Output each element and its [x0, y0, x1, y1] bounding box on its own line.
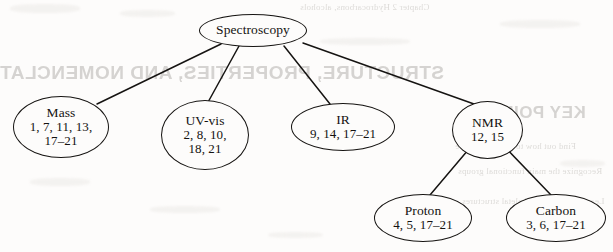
node-ir-label: IR — [336, 113, 350, 127]
node-spectroscopy-label: Spectroscopy — [216, 23, 290, 37]
spectroscopy-tree-diagram: Spectroscopy Mass 1, 7, 11, 13, 17–21 UV… — [0, 0, 613, 252]
node-uv-vis-label: UV-vis — [185, 114, 224, 128]
node-proton-refs-line-1: 4, 5, 17–21 — [393, 218, 453, 232]
node-nmr[interactable]: NMR 12, 15 — [452, 101, 523, 159]
node-mass-refs-line-1: 1, 7, 11, 13, — [30, 120, 93, 134]
node-carbon-label: Carbon — [536, 204, 576, 218]
edge-spectroscopy-ir — [284, 46, 330, 104]
node-mass-label: Mass — [47, 106, 76, 120]
node-nmr-refs-line-1: 12, 15 — [471, 130, 504, 144]
node-carbon-refs-line-1: 3, 6, 17–21 — [526, 218, 586, 232]
node-uv-vis-refs-line-1: 2, 8, 10, — [183, 128, 226, 142]
node-mass-refs-line-2: 17–21 — [45, 134, 78, 148]
node-ir-refs-line-1: 9, 14, 17–21 — [310, 127, 376, 141]
node-ir[interactable]: IR 9, 14, 17–21 — [291, 103, 395, 151]
edge-spectroscopy-nmr — [303, 43, 474, 104]
diagram-page: Chapter 2 Hydrocarbons, alcohols STRUCTU… — [0, 0, 613, 252]
node-carbon[interactable]: Carbon 3, 6, 17–21 — [506, 194, 606, 242]
node-spectroscopy[interactable]: Spectroscopy — [199, 14, 307, 47]
node-proton[interactable]: Proton 4, 5, 17–21 — [374, 194, 472, 242]
node-proton-label: Proton — [405, 204, 442, 218]
edge-spectroscopy-uv-vis — [207, 46, 239, 104]
node-nmr-label: NMR — [472, 116, 503, 130]
node-uv-vis[interactable]: UV-vis 2, 8, 10, 18, 21 — [161, 100, 249, 170]
node-mass[interactable]: Mass 1, 7, 11, 13, 17–21 — [13, 96, 109, 158]
node-uv-vis-refs-line-2: 18, 21 — [188, 142, 221, 156]
edge-spectroscopy-mass — [97, 44, 221, 104]
